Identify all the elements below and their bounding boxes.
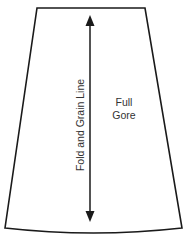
- piece-label-line-1: Full: [116, 96, 133, 108]
- pattern-piece-outline: [5, 8, 182, 233]
- gore-pattern-diagram: Fold and Grain Line Full Gore: [0, 0, 190, 240]
- piece-label-line-2: Gore: [112, 109, 136, 121]
- grain-line-label: Fold and Grain Line: [74, 79, 86, 171]
